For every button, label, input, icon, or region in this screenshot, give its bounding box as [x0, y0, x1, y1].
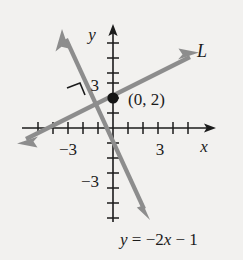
x-axis-label: x — [199, 137, 208, 156]
point-0-2-marker — [107, 92, 118, 103]
x-tick-label-neg3: −3 — [59, 140, 77, 159]
y-tick-label-neg3: −3 — [81, 172, 99, 191]
equation-y-term: y — [118, 230, 128, 249]
point-0-2-label: (0, 2) — [128, 90, 165, 109]
equation-equals-term: = −2 — [128, 230, 164, 249]
x-tick-label-3: 3 — [156, 140, 165, 159]
equation-label: y = −2x − 1 — [118, 230, 198, 249]
line-L-label: L — [196, 41, 207, 61]
coordinate-plane-svg: y x 3 −3 −3 3 L (0, 2) y = −2x − 1 — [0, 0, 243, 260]
y-tick-label-3: 3 — [91, 76, 100, 95]
equation-tail-term: − 1 — [171, 230, 198, 249]
graph-figure: y x 3 −3 −3 3 L (0, 2) y = −2x − 1 — [0, 0, 243, 260]
y-axis-label: y — [86, 25, 96, 44]
